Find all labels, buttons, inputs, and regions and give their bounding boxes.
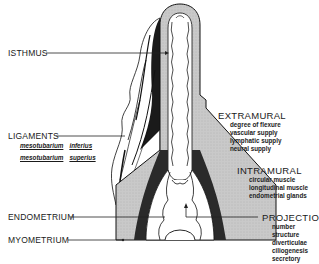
extramural-item: vascular supply (230, 129, 281, 137)
label-isthmus: ISTHMUS (8, 49, 48, 58)
ligament-item-1-b: inferius (69, 142, 92, 149)
projections-item: diverticulae (272, 239, 308, 247)
ligament-item-1-a: mesotubarium (20, 142, 63, 149)
ligament-item-2-a: mesotubarium (20, 154, 63, 161)
label-projections: PROJECTIONS (262, 213, 319, 223)
ligament-item-2: mesotubariumsuperius (20, 155, 102, 161)
projections-item: secretory (272, 255, 308, 263)
ligament-item-1: mesotubariuminferius (20, 143, 98, 149)
label-extramural: EXTRAMURAL (218, 111, 286, 121)
intramural-item: longitudinal muscle (249, 184, 308, 192)
projections-item: ciliogenesis (272, 247, 308, 255)
label-ligaments: LIGAMENTS (8, 132, 59, 141)
extramural-item: degree of flexure (230, 121, 281, 129)
projections-list: number structure diverticulae ciliogenes… (272, 223, 308, 263)
intramural-list: circular muscle longitudinal muscle endo… (249, 176, 308, 200)
projections-item: number (272, 223, 308, 231)
ligament-item-2-b: superius (69, 154, 95, 161)
label-myometrium: MYOMETRIUM (8, 236, 69, 245)
extramural-list: degree of flexure vascular supply lympha… (230, 121, 281, 153)
projections-item: structure (272, 231, 308, 239)
intramural-item: circular muscle (249, 176, 308, 184)
intramural-item: endometrial glands (249, 192, 308, 200)
extramural-item: lymphatic supply (230, 137, 281, 145)
label-endometrium: ENDOMETRIUM (8, 213, 74, 222)
lumen-isthmus (168, 13, 192, 180)
oviduct-diagram: ISTHMUS LIGAMENTS mesotubariuminferius m… (0, 0, 319, 264)
extramural-item: neural supply (230, 145, 281, 153)
label-intramural: INTRAMURAL (237, 166, 302, 176)
